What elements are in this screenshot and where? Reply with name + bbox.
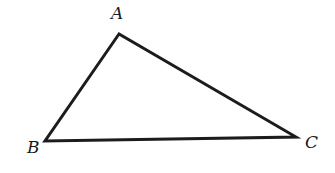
vertex-label-a: A (109, 3, 123, 23)
triangle-abc (45, 34, 296, 141)
triangle-diagram: A B C (0, 0, 335, 173)
triangle-svg: A B C (0, 0, 335, 173)
vertex-label-c: C (305, 132, 318, 152)
vertex-label-b: B (26, 137, 40, 157)
